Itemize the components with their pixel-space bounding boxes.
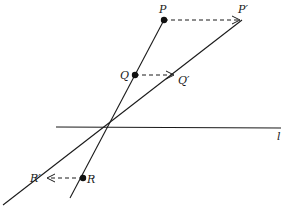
line-l: [56, 127, 281, 128]
label-p: P: [158, 3, 167, 16]
point-r: [80, 175, 86, 181]
label-r-prime: R′: [29, 172, 41, 185]
label-q-prime: Q′: [178, 74, 190, 87]
point-p: [161, 17, 167, 23]
shear-diagram: P P′ Q Q′ R R′ l: [0, 0, 288, 214]
label-r: R: [86, 173, 95, 186]
label-q: Q: [120, 69, 129, 82]
original-line: [70, 20, 164, 198]
label-p-prime: P′: [237, 3, 248, 16]
point-q: [132, 72, 138, 78]
label-l: l: [277, 130, 281, 143]
